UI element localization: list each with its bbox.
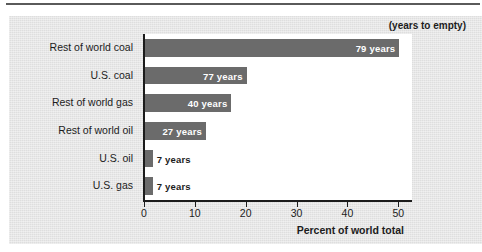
- bar-value-label: 79 years: [356, 42, 396, 53]
- category-label: U.S. gas: [93, 172, 138, 200]
- bar-value-label: 7 years: [157, 181, 191, 192]
- bar-value-label: 7 years: [157, 153, 191, 164]
- chart-note: (years to empty): [389, 20, 466, 31]
- chart-figure: (years to empty) Rest of world coalU.S. …: [0, 0, 482, 252]
- category-label: Rest of world gas: [52, 89, 138, 117]
- x-tick-label: 40: [342, 207, 354, 219]
- x-tick-label: 50: [392, 207, 404, 219]
- category-label: U.S. oil: [99, 145, 138, 173]
- bar-value-label: 77 years: [203, 70, 243, 81]
- x-axis-ticks: 01020304050: [144, 202, 412, 224]
- category-label: Rest of world coal: [50, 34, 138, 62]
- bar: [145, 150, 153, 168]
- source-caption: [300, 246, 476, 252]
- category-axis-labels: Rest of world coalU.S. coalRest of world…: [0, 34, 138, 200]
- top-divider-rule: [6, 3, 480, 5]
- category-label: U.S. coal: [90, 62, 138, 90]
- bar: [145, 177, 153, 195]
- x-axis-title: Percent of world total: [0, 224, 412, 236]
- x-tick-label: 30: [291, 207, 303, 219]
- x-tick-label: 10: [189, 207, 201, 219]
- x-tick-label: 20: [240, 207, 252, 219]
- x-tick-label: 0: [141, 207, 147, 219]
- category-label: Rest of world oil: [58, 117, 138, 145]
- bar-series: 79 years77 years40 years27 years7 years7…: [145, 34, 412, 200]
- bar-value-label: 27 years: [162, 125, 202, 136]
- bar-value-label: 40 years: [188, 98, 228, 109]
